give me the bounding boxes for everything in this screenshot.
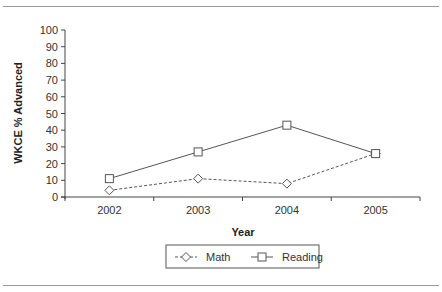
square-marker-icon: [258, 253, 266, 261]
y-axis-title: WKCE % Advanced: [12, 62, 24, 164]
series-line: [109, 154, 375, 191]
x-tick-label: 2004: [275, 204, 299, 216]
y-tick-label: 90: [46, 41, 58, 53]
legend-label: Reading: [282, 251, 323, 263]
y-tick-label: 40: [46, 124, 58, 136]
legend-item-reading: Reading: [251, 251, 323, 263]
series-layer: [105, 121, 380, 195]
y-tick-label: 30: [46, 141, 58, 153]
x-tick-label: 2002: [97, 204, 121, 216]
x-axis-title: Year: [231, 226, 255, 238]
y-tick-label: 60: [46, 91, 58, 103]
line-chart: 0102030405060708090100 2002200320042005 …: [0, 0, 442, 292]
y-tick-label: 50: [46, 108, 58, 120]
x-tick-label: 2005: [363, 204, 387, 216]
y-tick-label: 100: [40, 24, 58, 36]
diamond-marker-icon: [194, 174, 203, 183]
square-marker-icon: [105, 175, 113, 183]
square-marker-icon: [372, 150, 380, 158]
y-tick-label: 10: [46, 174, 58, 186]
diamond-marker-icon: [282, 179, 291, 188]
y-tick-label: 70: [46, 74, 58, 86]
y-tick-label: 0: [52, 191, 58, 203]
series-math: [105, 149, 380, 195]
y-tick-label: 80: [46, 57, 58, 69]
legend: MathReading: [166, 245, 323, 268]
legend-label: Math: [206, 251, 230, 263]
diamond-marker-icon: [105, 186, 114, 195]
y-axis: 0102030405060708090100: [40, 24, 65, 203]
x-tick-label: 2003: [186, 204, 210, 216]
y-tick-label: 20: [46, 158, 58, 170]
x-axis: 2002200320042005: [61, 197, 420, 216]
square-marker-icon: [194, 148, 202, 156]
series-line: [109, 125, 375, 178]
series-reading: [105, 121, 379, 182]
square-marker-icon: [283, 121, 291, 129]
